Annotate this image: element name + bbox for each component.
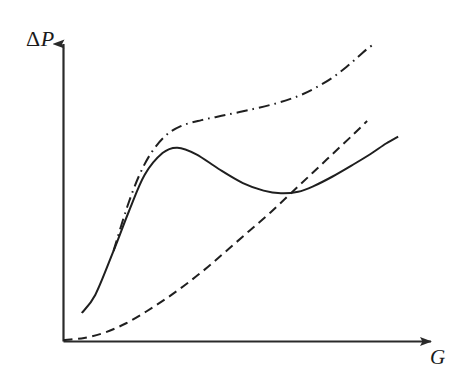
series-layer [64, 45, 399, 341]
curve-solid-curve [82, 137, 398, 313]
y-axis-label: ΔP [26, 26, 55, 52]
curve-dash-dot-curve [114, 45, 374, 251]
chart-figure: ΔP G [0, 0, 468, 378]
pressure-symbol: P [41, 26, 55, 51]
curve-dashed-curve [64, 121, 368, 340]
x-axis-label: G [430, 345, 445, 370]
delta-glyph: Δ [26, 26, 41, 51]
plot-area [0, 0, 468, 378]
